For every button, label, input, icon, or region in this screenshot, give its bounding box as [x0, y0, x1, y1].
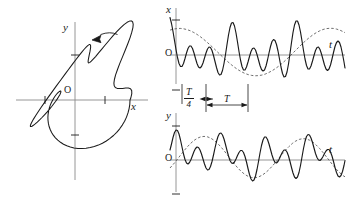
x-wave-value-axis-label: x	[166, 4, 171, 15]
phase-trajectory-curve	[30, 21, 133, 149]
x-wave-composite-solid	[170, 18, 345, 78]
x-wave-time-axis-label: t	[329, 39, 332, 50]
phase-direction-arrow	[92, 35, 101, 42]
quarter-period-denominator: 4	[184, 99, 194, 109]
period-arrow-left	[207, 103, 213, 107]
figure-canvas	[0, 0, 352, 197]
y-wave-composite-solid	[170, 130, 345, 181]
phase-origin-label: O	[64, 85, 71, 95]
y-wave-time-axis-label: t	[329, 144, 332, 155]
phase-y-axis-label: y	[63, 22, 68, 33]
y-vs-t-panel	[170, 113, 345, 194]
phase-plot-panel	[16, 21, 148, 180]
x-vs-t-panel	[170, 8, 345, 90]
y-wave-fundamental-dashed	[170, 136, 345, 177]
phase-x-axis-label: x	[131, 101, 136, 112]
quarter-period-numerator: T	[184, 87, 194, 98]
quarter-period-label: T 4	[184, 87, 194, 109]
x-wave-origin-label: O	[165, 48, 172, 58]
quarter-period-arrow-left	[200, 97, 206, 101]
y-wave-origin-label: O	[165, 153, 172, 163]
x-wave-fundamental-dashed	[170, 28, 345, 76]
period-label: T	[224, 94, 230, 104]
y-wave-value-axis-label: y	[166, 110, 171, 121]
period-arrow-right	[242, 103, 248, 107]
